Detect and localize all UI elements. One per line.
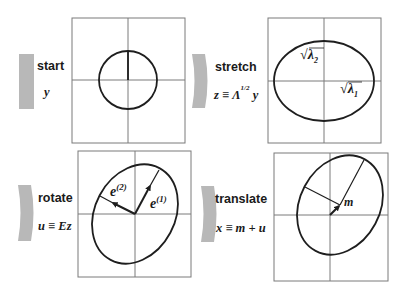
rotate-chevron-icon — [18, 185, 34, 241]
sqrt-lambda2-sub: 2 — [314, 56, 318, 65]
sqrt-lambda1-sub: 1 — [354, 90, 358, 99]
start-equation: y — [44, 85, 50, 100]
translate-label: translate — [215, 192, 267, 206]
stretch-equation-exponent: 1/2 — [241, 84, 250, 92]
rotate-label: rotate — [38, 191, 73, 205]
sqrt-lambda2-radical: √ — [300, 47, 308, 62]
start-label: start — [37, 59, 64, 73]
start-plot — [72, 18, 185, 143]
stretch-label: stretch — [215, 60, 257, 74]
translate-equation: x ≡ m + u — [216, 221, 266, 236]
e2-label: e(2) — [110, 182, 127, 200]
sqrt-lambda1-radical: √ — [340, 81, 348, 96]
translate-plot-frame — [274, 153, 388, 281]
rotate-plot — [75, 149, 194, 278]
e1-sup: (1) — [156, 194, 167, 204]
stretch-chevron-icon — [192, 54, 208, 108]
translate-plot — [274, 140, 400, 281]
e2-eigenvector-arrow — [113, 203, 135, 214]
diagram-canvas — [0, 0, 402, 293]
mean-vector-arrow — [330, 206, 339, 215]
rotate-equation: u ≡ Ez — [38, 219, 72, 234]
e1-eigenvector-arrow — [135, 186, 150, 214]
stretch-equation: z ≡ Λ1/2 y — [214, 88, 258, 103]
step-rotate — [18, 149, 195, 278]
mean-label: m — [344, 195, 353, 210]
e1-axis-extension — [150, 170, 159, 186]
sqrt-lambda1-label: √λ1 — [340, 81, 358, 99]
step-start — [19, 18, 185, 143]
start-chevron-icon — [19, 54, 34, 109]
stretch-equation-lhs: z ≡ Λ — [214, 88, 241, 102]
translated-minor-axis — [305, 187, 340, 205]
e2-sup: (2) — [116, 182, 127, 192]
e1-label: e(1) — [150, 194, 167, 212]
stretch-equation-rhs: y — [250, 88, 259, 102]
sqrt-lambda2-label: √λ2 — [300, 47, 318, 65]
stretch-plot — [268, 18, 381, 143]
step-translate — [201, 140, 400, 281]
